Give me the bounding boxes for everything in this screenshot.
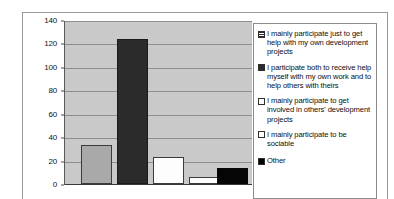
legend-label: Other (267, 156, 286, 165)
legend-swatch-hatched-icon (258, 31, 265, 38)
chart-screenshot: 140 120 100 80 60 40 20 0 (0, 0, 394, 199)
y-tick-label: 120 (44, 40, 57, 48)
y-tick-label: 60 (49, 111, 58, 119)
legend-item: I mainly participate to get involved in … (258, 96, 372, 124)
plot-area (64, 21, 252, 185)
plot-region: 140 120 100 80 60 40 20 0 (37, 21, 252, 199)
bar-category-3 (153, 157, 184, 184)
y-tick-label: 20 (49, 158, 58, 166)
legend-swatch-white-icon (258, 98, 265, 105)
legend-item: I mainly participate to be sociable (258, 130, 372, 148)
chart-legend: I mainly participate just to get help wi… (253, 23, 377, 199)
chart-frame: 140 120 100 80 60 40 20 0 (22, 12, 388, 199)
legend-swatch-black-icon (258, 158, 265, 165)
y-tick-label: 100 (44, 64, 57, 72)
legend-swatch-white-icon (258, 131, 265, 138)
y-tick-label: 40 (49, 134, 58, 142)
bar-category-5 (217, 168, 248, 184)
y-axis: 140 120 100 80 60 40 20 0 (37, 21, 61, 185)
legend-label: I mainly participate to get involved in … (267, 96, 372, 124)
bar-series (65, 21, 252, 185)
legend-label: I mainly participate just to get help wi… (267, 29, 372, 57)
legend-label: I participate both to receive help mysel… (267, 63, 372, 91)
bar-category-2 (117, 39, 148, 184)
legend-label: I mainly participate to be sociable (267, 130, 372, 148)
y-tick-label: 80 (49, 87, 58, 95)
legend-swatch-dark-icon (258, 64, 265, 71)
bar-category-4 (189, 177, 220, 184)
legend-item: Other (258, 156, 372, 165)
bar-category-1 (81, 145, 112, 184)
legend-item: I participate both to receive help mysel… (258, 63, 372, 91)
y-tick-label: 140 (44, 17, 57, 25)
y-tick-label: 0 (53, 181, 57, 189)
legend-item: I mainly participate just to get help wi… (258, 29, 372, 57)
